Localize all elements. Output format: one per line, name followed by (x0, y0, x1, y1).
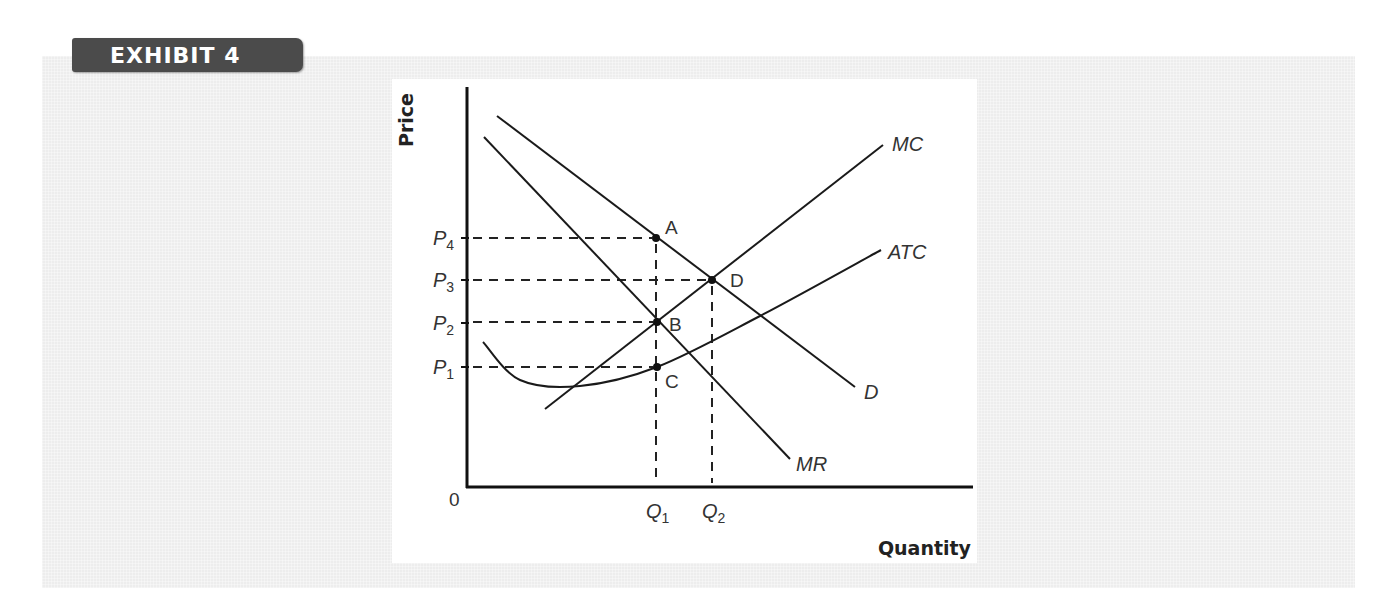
point-c (653, 363, 661, 371)
curve-label-mc: MC (892, 133, 924, 155)
y-tick-label: P2 (433, 312, 454, 338)
y-tick-labels: P4P3P2P1 (433, 227, 469, 382)
curve-label-mr: MR (796, 453, 827, 475)
curve-d (497, 116, 855, 387)
point-d (708, 276, 716, 284)
point-a (652, 234, 660, 242)
point-label: C (665, 371, 679, 392)
point-label: A (665, 217, 678, 238)
y-tick-label: P1 (433, 356, 454, 382)
y-axis-title: Price (395, 93, 417, 147)
origin-label: 0 (449, 489, 460, 510)
point-label: D (730, 270, 744, 291)
x-tick-labels: Q1Q2 (646, 500, 726, 526)
point-b (653, 318, 661, 326)
x-axis-title: Quantity (878, 537, 972, 559)
curve-labels: DMRMCATC (796, 133, 927, 475)
point-label: B (669, 314, 682, 335)
x-tick-label: Q1 (646, 500, 670, 526)
curves (483, 116, 883, 459)
curve-label-d: D (864, 381, 878, 403)
y-tick-label: P4 (433, 227, 454, 253)
monopoly-chart: P4P3P2P1 Q1Q2 DMRMCATC ADBC 0 Quantity P… (0, 0, 1399, 605)
x-tick-label: Q2 (702, 500, 726, 526)
curve-label-atc: ATC (887, 241, 927, 263)
y-tick-label: P3 (433, 269, 454, 295)
curve-mr (484, 137, 790, 459)
dashed-guides (473, 238, 712, 483)
